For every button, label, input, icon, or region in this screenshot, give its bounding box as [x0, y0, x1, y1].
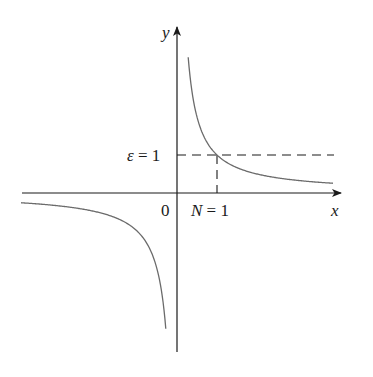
y-axis-label: y	[160, 23, 170, 42]
n-value: = 1	[202, 201, 229, 220]
epsilon-label: ε = 1	[127, 146, 160, 165]
x-axis-label: x	[330, 201, 339, 220]
function-plot: y x 0 ε = 1 N = 1	[0, 0, 373, 377]
origin-label: 0	[161, 201, 170, 220]
curve-negative-branch	[21, 203, 166, 329]
diagram-canvas: y x 0 ε = 1 N = 1	[0, 0, 373, 377]
curve-positive-branch	[188, 57, 333, 183]
epsilon-value: = 1	[134, 146, 161, 165]
n-label: N = 1	[190, 201, 229, 220]
